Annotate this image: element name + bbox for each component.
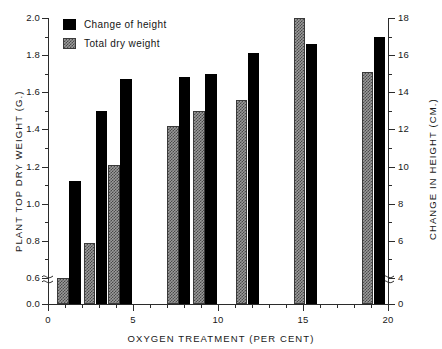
right-y-minor-tick — [389, 37, 392, 38]
x-minor-tick — [354, 305, 355, 308]
x-minor-tick — [82, 305, 83, 308]
x-major-tick — [133, 305, 134, 311]
right-y-minor-tick — [389, 148, 392, 149]
left-y-axis-title: PLANT TOP DRY WEIGHT (G.) — [14, 91, 24, 252]
right-y-tick-label: 16 — [398, 50, 409, 60]
right-y-tick-label: 4 — [398, 273, 403, 283]
x-minor-tick — [201, 305, 202, 308]
x-minor-tick — [286, 305, 287, 308]
x-tick-label: 10 — [198, 315, 238, 325]
left-y-tick-label: 0.6 — [4, 273, 40, 283]
x-tick-label: 5 — [113, 315, 153, 325]
x-tick-label: 0 — [28, 315, 68, 325]
right-y-tick — [389, 304, 395, 305]
x-minor-tick — [269, 305, 270, 308]
right-y-tick-label: 8 — [398, 199, 403, 209]
right-y-tick-label: 0 — [398, 299, 403, 309]
x-minor-tick — [371, 305, 372, 308]
legend-item-total-dry-weight: Total dry weight — [63, 36, 167, 51]
left-y-tick-label: 0.0 — [4, 299, 40, 309]
right-y-tick-label: 14 — [398, 87, 409, 97]
right-y-tick — [389, 241, 395, 242]
right-y-minor-tick — [389, 185, 392, 186]
bar-total-dry-weight — [236, 100, 248, 304]
x-major-tick — [303, 305, 304, 311]
right-y-tick — [389, 18, 395, 19]
legend-label-change-of-height: Change of height — [84, 19, 167, 30]
x-minor-tick — [320, 305, 321, 308]
legend-item-change-of-height: Change of height — [63, 17, 167, 32]
right-y-tick — [389, 92, 395, 93]
x-minor-tick — [167, 305, 168, 308]
bar-change-of-height — [179, 77, 191, 304]
x-axis-title: OXYGEN TREATMENT (PER CENT) — [0, 334, 442, 344]
right-y-tick — [389, 55, 395, 56]
right-y-minor-tick — [389, 259, 392, 260]
bar-change-of-height — [306, 44, 318, 304]
right-y-tick — [389, 167, 395, 168]
right-y-minor-tick — [389, 74, 392, 75]
bar-chart-figure: 0.00.60.81.01.21.41.61.82.0 046810121416… — [0, 0, 442, 349]
legend-swatch-gray-icon — [63, 38, 76, 49]
right-y-tick-label: 6 — [398, 236, 403, 246]
x-minor-tick — [235, 305, 236, 308]
x-minor-tick — [252, 305, 253, 308]
bar-change-of-height — [205, 74, 217, 304]
chart-legend: Change of height Total dry weight — [63, 17, 167, 55]
bar-total-dry-weight — [362, 72, 374, 304]
bar-change-of-height — [248, 53, 260, 304]
x-major-tick — [388, 305, 389, 311]
bar-change-of-height — [374, 37, 386, 304]
right-y-tick-label: 12 — [398, 124, 409, 134]
bar-change-of-height — [96, 111, 108, 304]
bar-total-dry-weight — [193, 111, 205, 304]
right-y-tick-label: 10 — [398, 162, 409, 172]
left-y-tick-label: 1.8 — [4, 50, 40, 60]
x-minor-tick — [337, 305, 338, 308]
x-tick-label: 15 — [283, 315, 323, 325]
bar-total-dry-weight — [108, 165, 120, 304]
bar-total-dry-weight — [57, 278, 69, 304]
x-minor-tick — [150, 305, 151, 308]
bar-change-of-height — [120, 79, 132, 304]
x-minor-tick — [65, 305, 66, 308]
x-minor-tick — [184, 305, 185, 308]
x-minor-tick — [116, 305, 117, 308]
bars-container — [48, 18, 389, 304]
right-y-minor-tick — [389, 222, 392, 223]
x-tick-label: 20 — [368, 315, 408, 325]
right-y-tick-label: 18 — [398, 13, 409, 23]
right-y-tick — [389, 129, 395, 130]
bar-change-of-height — [69, 181, 81, 304]
legend-label-total-dry-weight: Total dry weight — [84, 38, 160, 49]
bar-total-dry-weight — [294, 18, 306, 304]
right-y-axis-title: CHANGE IN HEIGHT (CM.) — [428, 98, 438, 240]
left-y-tick-label: 2.0 — [4, 13, 40, 23]
right-y-tick — [389, 204, 395, 205]
x-major-tick — [218, 305, 219, 311]
bar-total-dry-weight — [167, 126, 179, 304]
bar-total-dry-weight — [84, 243, 96, 304]
right-y-minor-tick — [389, 111, 392, 112]
x-minor-tick — [99, 305, 100, 308]
legend-swatch-black-icon — [63, 19, 76, 30]
x-major-tick — [48, 305, 49, 311]
